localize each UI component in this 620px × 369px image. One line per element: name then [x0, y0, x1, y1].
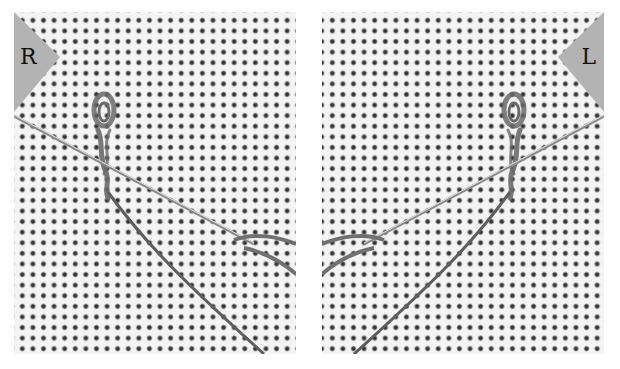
stitch-knot	[504, 94, 524, 198]
stitch-illustration	[14, 12, 296, 354]
thread-tail	[108, 192, 264, 354]
thread-through-eye	[322, 236, 384, 274]
thread-through-eye	[234, 236, 296, 274]
thread-tail	[354, 192, 510, 354]
photo-panel-right-handed: R	[14, 12, 296, 354]
hand-label: R	[20, 44, 37, 69]
stitch-illustration	[322, 12, 604, 354]
stitch-knot	[94, 94, 114, 198]
hand-label: L	[581, 44, 596, 69]
photo-panel-left-handed: L	[322, 12, 604, 354]
